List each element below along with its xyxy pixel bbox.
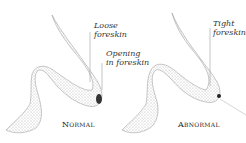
abnormal-opening <box>217 94 221 98</box>
foreskin-comparison-diagram: Loose foreskin Opening in foreskin Tight… <box>0 0 246 143</box>
label-line: foreskin <box>213 29 246 38</box>
caption-normal: Normal <box>62 120 95 129</box>
abnormal-illustration <box>122 13 221 133</box>
leader-line-opening-abnormal <box>220 99 246 115</box>
normal-opening <box>96 94 102 104</box>
label-tight-foreskin: Tight foreskin <box>213 20 246 37</box>
label-opening-in-foreskin: Opening in foreskin <box>106 50 149 67</box>
normal-illustration <box>6 15 102 133</box>
label-line: foreskin <box>94 31 127 40</box>
label-loose-foreskin: Loose foreskin <box>94 22 127 39</box>
caption-abnormal: Abnormal <box>178 120 220 129</box>
label-line: in foreskin <box>106 59 149 68</box>
